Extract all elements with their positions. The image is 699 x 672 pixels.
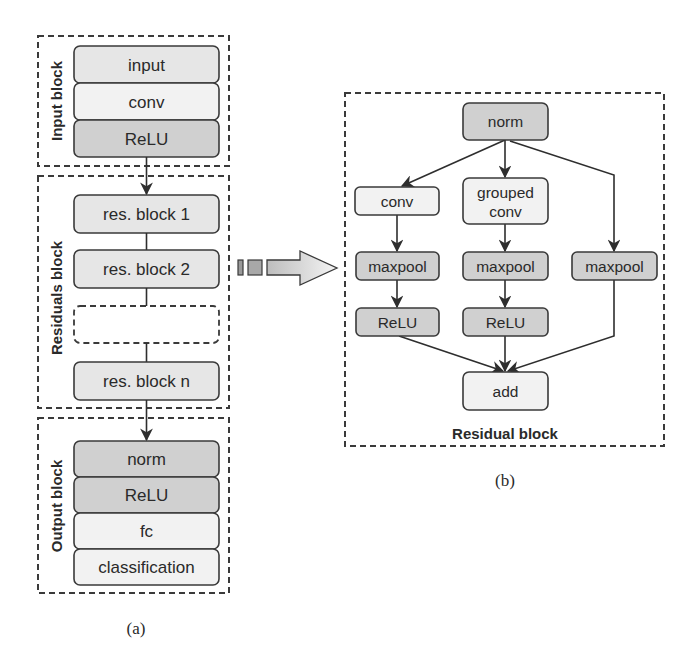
res-block-ellipsis-placeholder — [74, 306, 219, 343]
panel-a: Input block input conv ReLU Residuals bl… — [38, 36, 229, 638]
edge-relu1-add — [399, 336, 503, 371]
node-relu-1-label: ReLU — [378, 314, 418, 331]
node-relu-2-label: ReLU — [486, 314, 526, 331]
caption-a: (a) — [127, 619, 146, 638]
node-norm-label: norm — [488, 113, 523, 130]
input-block-label: Input block — [48, 60, 65, 141]
layer-norm-label: norm — [127, 450, 166, 469]
node-add-label: add — [493, 383, 519, 400]
input-block: Input block input conv ReLU — [38, 36, 229, 166]
layer-input-label: input — [128, 56, 165, 75]
layer-classification-label: classification — [98, 558, 194, 577]
layer-relu-output-label: ReLU — [125, 486, 168, 505]
res-block-2-label: res. block 2 — [103, 260, 190, 279]
output-block-label: Output block — [48, 459, 65, 552]
output-block: Output block norm ReLU fc classification — [38, 418, 229, 593]
node-grouped-conv-label-line1: grouped — [477, 184, 534, 201]
layer-fc-label: fc — [140, 522, 154, 541]
node-grouped-conv-label-line2: conv — [489, 203, 522, 220]
node-conv-label: conv — [381, 193, 414, 210]
panel-b: norm conv grouped conv maxpool maxpool m… — [345, 93, 664, 490]
node-maxpool-1-label: maxpool — [368, 258, 427, 275]
residuals-block-label: Residuals block — [48, 240, 65, 355]
node-maxpool-3-label: maxpool — [585, 258, 644, 275]
expand-arrow-icon — [238, 251, 337, 285]
res-block-n-label: res. block n — [103, 372, 190, 391]
res-block-1-label: res. block 1 — [103, 205, 190, 224]
residuals-block: Residuals block res. block 1 res. block … — [38, 176, 229, 408]
layer-relu-label: ReLU — [125, 130, 168, 149]
diagram-canvas: Input block input conv ReLU Residuals bl… — [0, 0, 699, 672]
residual-block-title: Residual block — [452, 425, 559, 442]
layer-conv-label: conv — [129, 93, 165, 112]
caption-b: (b) — [495, 471, 515, 490]
node-maxpool-2-label: maxpool — [476, 258, 535, 275]
